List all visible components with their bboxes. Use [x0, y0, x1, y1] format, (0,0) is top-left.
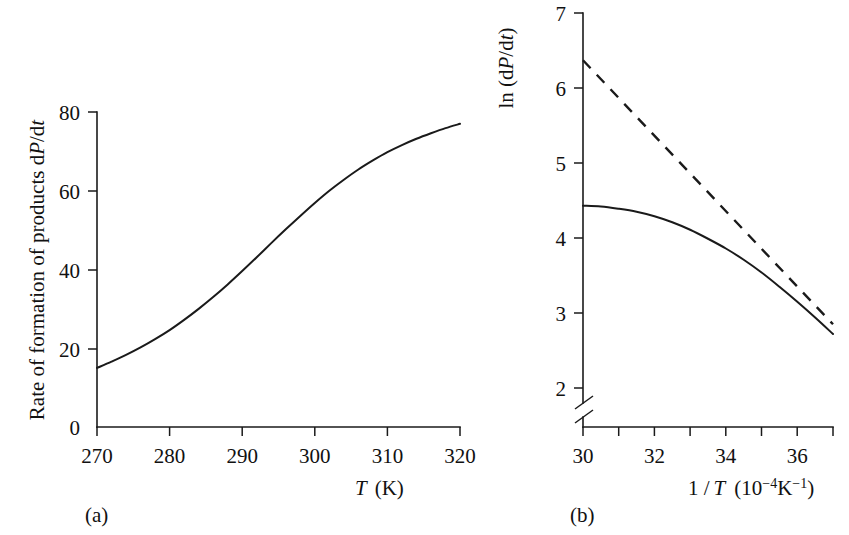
panel-b-xtick-34: 34: [715, 444, 737, 468]
panel-b-tag: (b): [570, 503, 595, 527]
panel-b-xlabel-unit-close: ): [807, 476, 814, 500]
figure-root: 80 60 40 20 0 270 280 290 300 310 320 T(…: [0, 0, 849, 535]
panel-b-x-axis-label: 1 /T(10−4K−1): [688, 476, 814, 500]
svg-text:ln (dP/dt): ln (dP/dt): [494, 27, 518, 108]
panel-b-xlabel-unit-k: K: [777, 476, 792, 500]
panel-b-arrhenius-solid-curve: [583, 206, 833, 334]
panel-b-xtick-32: 32: [644, 444, 665, 468]
panel-b-xlabel-exp-1: −4: [762, 476, 777, 491]
panel-b-xlabel-pre: 1 /: [688, 476, 710, 500]
panel-b-y-axis-label: ln (dP/dt): [494, 27, 518, 108]
panel-b-chart: 7 6 5 4 3 2 30 32 34 36 1 /T(10−4K−1) ln…: [0, 0, 849, 535]
panel-b-ytick-6: 6: [556, 77, 567, 101]
panel-b-axis-break-icon: [575, 396, 593, 423]
panel-b-ylabel-mid: /d: [494, 40, 518, 57]
panel-b-xlabel-symbol: T: [714, 476, 727, 500]
panel-b-arrhenius-dashed-line: [583, 60, 833, 324]
panel-b-ylabel-pre: ln (d: [494, 69, 518, 109]
panel-b-xtick-36: 36: [787, 444, 808, 468]
panel-b-ylabel-post: ): [494, 27, 518, 34]
panel-b-xlabel-exp-2: −1: [792, 476, 807, 491]
panel-b-ytick-4: 4: [556, 227, 567, 251]
panel-b-ytick-7: 7: [556, 2, 567, 26]
panel-b-ylabel-P: P: [494, 56, 518, 70]
panel-b-x-ticks: [583, 427, 833, 436]
panel-b-ytick-2: 2: [556, 377, 567, 401]
panel-b-ytick-3: 3: [556, 302, 567, 326]
panel-b-ytick-5: 5: [556, 152, 567, 176]
panel-b-xlabel-unit-open: (10: [734, 476, 762, 500]
svg-text:1 /T(10−4K−1): 1 /T(10−4K−1): [688, 476, 814, 500]
panel-b-xtick-30: 30: [573, 444, 594, 468]
panel-b-y-ticks: [574, 13, 583, 388]
